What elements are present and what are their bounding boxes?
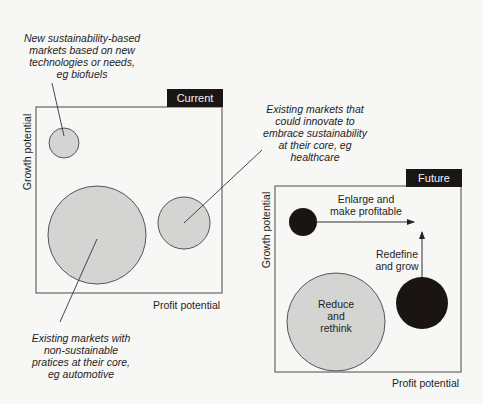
current-small-circle [49, 128, 79, 158]
future-x-axis-label: Profit potential [392, 377, 459, 389]
reduce-label: Reduce and rethink [306, 298, 366, 334]
note-line: eg biofuels [20, 68, 144, 80]
future-large-black-circle [396, 277, 448, 329]
redefine-label: Redefine and grow [372, 248, 422, 272]
current-y-axis-label: Growth potential [21, 108, 33, 196]
label-line: and [306, 310, 366, 322]
note-line: eg automotive [26, 368, 136, 380]
label-line: Redefine [372, 248, 422, 260]
note-line: could innovate to [250, 115, 380, 127]
label-line: rethink [306, 322, 366, 334]
note-line: New sustainability-based [20, 32, 144, 44]
enlarge-label: Enlarge and make profitable [326, 193, 406, 217]
future-y-axis-label: Growth potential [260, 186, 272, 274]
note-line: pratices at their core, [26, 356, 136, 368]
label-line: and grow [372, 260, 422, 272]
note-line: at their core, eg [250, 139, 380, 151]
label-line: Enlarge and [326, 193, 406, 205]
current-tag: Current [167, 89, 223, 107]
future-tag: Future [406, 169, 462, 187]
future-small-black-circle [289, 208, 317, 236]
leader-line-small [52, 83, 64, 136]
label-line: make profitable [326, 205, 406, 217]
note-line: Existing markets with [26, 332, 136, 344]
label-line: Reduce [306, 298, 366, 310]
note-line: Existing markets that [250, 103, 380, 115]
note-line: technologies or needs, [20, 56, 144, 68]
annotation-non-sustainable: Existing markets with non-sustainable pr… [26, 332, 136, 380]
annotation-existing-innovate: Existing markets that could innovate to … [250, 103, 380, 163]
note-line: healthcare [250, 151, 380, 163]
current-x-axis-label: Profit potential [153, 299, 220, 311]
note-line: non-sustainable [26, 344, 136, 356]
note-line: embrace sustainability [250, 127, 380, 139]
current-large-circle [48, 186, 146, 284]
note-line: markets based on new [20, 44, 144, 56]
annotation-new-markets: New sustainability-based markets based o… [20, 32, 144, 80]
